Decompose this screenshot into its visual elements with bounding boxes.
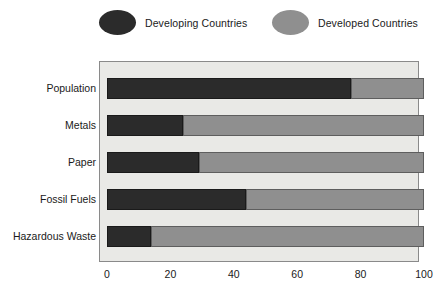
bar-row bbox=[100, 78, 418, 99]
x-axis-tick-40: 40 bbox=[228, 268, 240, 280]
legend-label-developing-countries: Developing Countries bbox=[145, 17, 247, 29]
y-axis-category-labels: PopulationMetalsPaperFossil FuelsHazardo… bbox=[0, 61, 96, 262]
bar-segment bbox=[199, 152, 424, 173]
bar-segment bbox=[183, 115, 424, 136]
legend-item-developed-countries: Developed Countries bbox=[272, 10, 418, 35]
x-axis-tick-0: 0 bbox=[104, 268, 110, 280]
plot-area bbox=[99, 61, 419, 262]
bar-row bbox=[100, 115, 418, 136]
bar-segment bbox=[107, 78, 351, 99]
x-axis-tick-80: 80 bbox=[355, 268, 367, 280]
bar-segment bbox=[351, 78, 424, 99]
bar-segment bbox=[107, 189, 246, 210]
legend-item-developing-countries: Developing Countries bbox=[99, 10, 247, 35]
bar-segment bbox=[151, 226, 424, 247]
legend-label-developed-countries: Developed Countries bbox=[318, 17, 418, 29]
bar-segment bbox=[246, 189, 424, 210]
chart-legend: Developing Countries Developed Countries bbox=[0, 0, 433, 48]
y-axis-label-fossil-fuels: Fossil Fuels bbox=[3, 193, 96, 205]
bar-segment bbox=[107, 226, 151, 247]
x-axis-tick-60: 60 bbox=[291, 268, 303, 280]
bar-row bbox=[100, 152, 418, 173]
x-axis: 020406080100 bbox=[99, 262, 419, 292]
y-axis-label-paper: Paper bbox=[3, 156, 96, 168]
bar-row bbox=[100, 226, 418, 247]
x-axis-tick-20: 20 bbox=[165, 268, 177, 280]
bar-segment bbox=[107, 152, 199, 173]
y-axis-label-hazardous-waste: Hazardous Waste bbox=[3, 230, 96, 242]
x-axis-tick-100: 100 bbox=[415, 268, 433, 280]
y-axis-label-population: Population bbox=[3, 82, 96, 94]
y-axis-label-metals: Metals bbox=[3, 119, 96, 131]
light-ellipse-icon bbox=[272, 10, 309, 35]
bar-segment bbox=[107, 115, 183, 136]
bar-row bbox=[100, 189, 418, 210]
dark-ellipse-icon bbox=[99, 10, 136, 35]
